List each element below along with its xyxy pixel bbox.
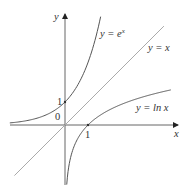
label-exp: y = ex (99, 27, 126, 39)
y-axis-label: y (53, 11, 59, 22)
point-1-0 (87, 124, 89, 126)
chart-plot-area: y x 0 1 1 y = ex y = x y = ln x (0, 0, 190, 187)
curve-exponential (10, 17, 101, 123)
x-tick-1-label: 1 (85, 129, 90, 140)
origin-label: 0 (55, 111, 60, 122)
point-0-1 (64, 101, 66, 103)
label-ln: y = ln x (135, 102, 169, 113)
y-tick-1-label: 1 (57, 96, 62, 107)
x-axis-label: x (173, 128, 179, 139)
line-y-equals-x (14, 26, 164, 176)
label-y-equals-x: y = x (147, 42, 170, 53)
